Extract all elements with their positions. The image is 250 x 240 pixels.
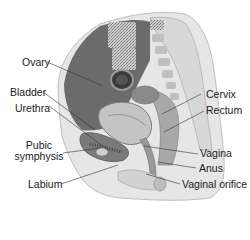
pubic-bone <box>96 148 108 156</box>
label-cervix: Cervix <box>206 89 236 100</box>
label-vaginal-orifice: Vaginal orifice <box>182 179 247 190</box>
label-rectum: Rectum <box>206 105 242 116</box>
label-pubic-symphysis: Pubic symphysis <box>14 140 64 162</box>
label-ovary: Ovary <box>22 57 50 68</box>
label-urethra: Urethra <box>15 103 50 114</box>
label-anus: Anus <box>199 163 223 174</box>
label-labium: Labium <box>28 179 62 190</box>
label-vagina: Vagina <box>200 148 232 159</box>
label-bladder: Bladder <box>10 87 46 98</box>
label-pubic-symphysis-line2: symphysis <box>14 151 64 162</box>
